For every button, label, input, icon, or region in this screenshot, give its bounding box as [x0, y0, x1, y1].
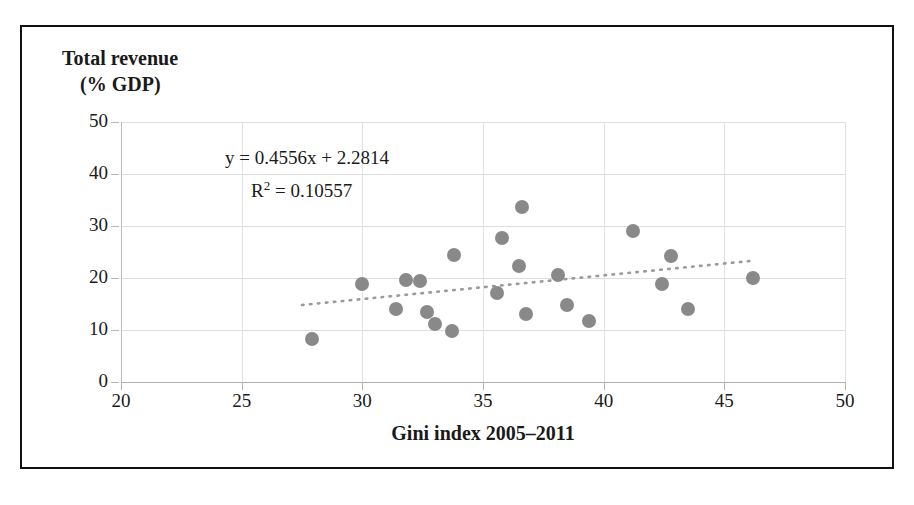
x-axis-tick — [845, 382, 846, 390]
scatter-point — [681, 302, 695, 316]
r-squared-value: = 0.10557 — [270, 180, 352, 201]
figure-frame: Total revenue (% GDP) 01020304050 202530… — [20, 25, 894, 469]
scatter-point — [413, 274, 427, 288]
scatter-point — [355, 277, 369, 291]
scatter-point — [305, 332, 319, 346]
scatter-point — [445, 324, 459, 338]
x-axis-tick — [242, 382, 243, 390]
y-axis-title-line2: (% GDP) — [62, 71, 178, 97]
y-axis-tick-label: 20 — [48, 266, 108, 288]
scatter-point — [560, 298, 574, 312]
x-axis-tick-label: 45 — [694, 390, 754, 412]
y-axis-title: Total revenue (% GDP) — [62, 45, 178, 97]
x-axis-tick-label: 35 — [453, 390, 513, 412]
y-axis-tick — [111, 174, 119, 175]
scatter-point — [664, 249, 678, 263]
y-axis-title-line1: Total revenue — [62, 47, 178, 69]
scatter-point — [582, 314, 596, 328]
y-axis-tick — [111, 226, 119, 227]
x-axis-tick — [604, 382, 605, 390]
scatter-point — [746, 271, 760, 285]
x-axis-tick-label: 25 — [212, 390, 272, 412]
scatter-point — [490, 286, 504, 300]
y-axis-tick — [111, 122, 119, 123]
y-axis-tick-label: 40 — [48, 162, 108, 184]
regression-equation: y = 0.4556x + 2.2814 — [225, 147, 389, 168]
scatter-point — [515, 200, 529, 214]
scatter-point — [428, 317, 442, 331]
y-axis-tick — [111, 278, 119, 279]
x-axis-tick — [724, 382, 725, 390]
y-axis-tick-label: 10 — [48, 318, 108, 340]
y-axis-tick — [111, 330, 119, 331]
scatter-point — [626, 224, 640, 238]
y-axis-tick — [111, 382, 119, 383]
x-axis-tick — [362, 382, 363, 390]
x-axis-tick — [483, 382, 484, 390]
plot-area: 01020304050 20253035404550 y = 0.4556x +… — [121, 122, 845, 382]
scatter-point — [655, 277, 669, 291]
y-axis-tick-label: 0 — [48, 370, 108, 392]
x-axis-title: Gini index 2005–2011 — [121, 422, 845, 445]
x-axis-tick-label: 40 — [574, 390, 634, 412]
r-squared-prefix: R — [251, 180, 264, 201]
y-axis-tick-label: 50 — [48, 110, 108, 132]
gridline-vertical — [845, 122, 846, 382]
scatter-point — [495, 231, 509, 245]
x-axis-tick — [121, 382, 122, 390]
y-axis-tick-label: 30 — [48, 214, 108, 236]
scatter-point — [551, 268, 565, 282]
regression-annotation: y = 0.4556x + 2.2814 R2 = 0.10557 — [225, 144, 389, 205]
r-squared-annotation: R2 = 0.10557 — [225, 172, 389, 205]
x-axis-tick-label: 30 — [332, 390, 392, 412]
scatter-point — [389, 302, 403, 316]
x-axis-tick-label: 20 — [91, 390, 151, 412]
x-axis-tick-label: 50 — [815, 390, 875, 412]
scatter-point — [512, 259, 526, 273]
scatter-point — [447, 248, 461, 262]
scatter-point — [399, 273, 413, 287]
scatter-point — [519, 307, 533, 321]
